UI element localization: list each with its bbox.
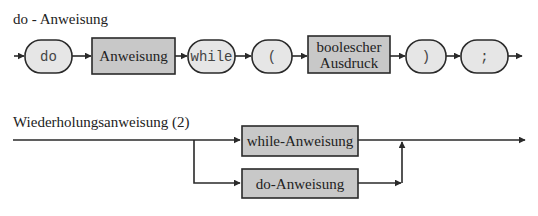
terminal-do: do: [25, 40, 72, 73]
nonterminal-anweisung: Anweisung: [92, 38, 175, 74]
terminal-label: ): [422, 49, 430, 65]
terminal-open-paren: (: [252, 40, 292, 73]
nonterminal-label: Anweisung: [99, 48, 168, 64]
nonterminal-boolean-expression: boolescher Ausdruck: [308, 36, 390, 73]
railroad-svg: do Anweisung while ( boolescher Ausd: [0, 0, 538, 216]
nonterminal-do-statement: do-Anweisung: [242, 169, 358, 198]
terminal-label: do: [40, 49, 57, 65]
do-statement-railroad: do Anweisung while ( boolescher Ausd: [14, 36, 522, 74]
nonterminal-label: do-Anweisung: [256, 176, 345, 192]
nonterminal-label-line1: boolescher: [317, 39, 382, 55]
terminal-label: while: [190, 49, 232, 65]
branch-arrow: [194, 140, 240, 183]
nonterminal-while-statement: while-Anweisung: [242, 126, 358, 156]
terminal-label: (: [268, 49, 276, 65]
terminal-semicolon: ;: [461, 40, 508, 73]
nonterminal-label-line2: Ausdruck: [320, 55, 379, 71]
terminal-while: while: [188, 40, 235, 73]
terminal-label: ;: [480, 49, 488, 65]
nonterminal-label: while-Anweisung: [247, 133, 354, 149]
syntax-diagrams: do - Anweisung Wiederholungsanweisung (2…: [0, 0, 538, 216]
loop-statement-railroad: while-Anweisung do-Anweisung: [13, 126, 525, 198]
terminal-close-paren: ): [406, 40, 446, 73]
